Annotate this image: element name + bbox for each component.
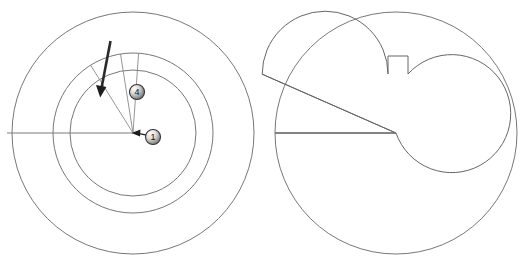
right-sectional-view	[262, 11, 517, 254]
left-radial-line-1	[91, 65, 133, 133]
technical-diagram-canvas: 4 1	[0, 0, 525, 275]
callout-balloon-4[interactable]	[130, 85, 145, 100]
direction-arrow-shaft	[102, 41, 111, 88]
diagram-root: 4 1	[0, 0, 525, 275]
direction-arrow-head	[96, 85, 106, 98]
left-sectional-view: 4 1	[7, 12, 254, 254]
right-rotor-outline	[262, 11, 511, 172]
callout-balloon-1[interactable]	[146, 130, 161, 145]
right-notch-upper-edge	[262, 74, 396, 133]
